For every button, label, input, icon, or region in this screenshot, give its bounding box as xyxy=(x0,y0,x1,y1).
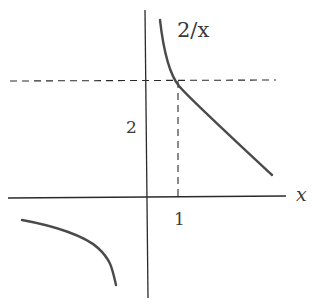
curve-label: 2/x xyxy=(177,20,209,41)
curve-label-text: 2/x xyxy=(177,18,209,42)
curve-negative-branch xyxy=(22,220,116,285)
dashed-hline-y2 xyxy=(10,80,276,81)
x-axis-label: x xyxy=(296,185,307,204)
chart-root: 2/x 2 1 x xyxy=(0,0,314,305)
y-axis xyxy=(145,10,148,298)
curve-positive-branch xyxy=(160,20,272,175)
chart-canvas xyxy=(0,0,314,305)
y-tick-label-2: 2 xyxy=(126,119,137,136)
x-tick-label-1: 1 xyxy=(174,211,185,228)
